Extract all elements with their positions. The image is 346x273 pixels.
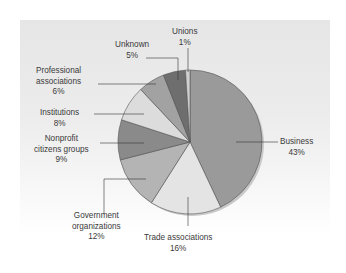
label-business: Business 43% [280, 137, 313, 158]
label-unknown: Unknown 5% [115, 40, 149, 61]
label-government-organizations: Government organizations 12% [72, 211, 121, 243]
label-trade-associations: Trade associations 16% [144, 233, 212, 254]
label-professional-associations: Professional associations 6% [36, 66, 81, 98]
label-institutions: Institutions 8% [40, 108, 79, 129]
label-unions: Unions 1% [172, 27, 198, 48]
label-nonprofit-citizens-groups: Nonprofit citizens groups 9% [34, 134, 89, 166]
